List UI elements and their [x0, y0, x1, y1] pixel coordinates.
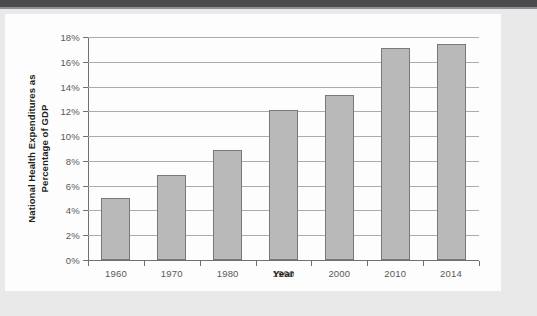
x-axis-tick	[144, 261, 145, 266]
x-axis-tick	[479, 261, 480, 266]
y-axis-tick-label: 18%	[60, 32, 80, 43]
x-axis-tick	[200, 261, 201, 266]
bar	[101, 198, 130, 260]
y-axis-tick-label: 16%	[60, 56, 80, 67]
x-axis-tick	[256, 261, 257, 266]
bar	[157, 175, 186, 260]
y-axis-title: National Health Expenditures as Percenta…	[21, 37, 55, 260]
y-axis-tick-label: 8%	[66, 155, 80, 166]
bar	[381, 48, 410, 260]
y-axis-tick-label: 6%	[66, 180, 80, 191]
y-axis-title-line2: Percentage of GDP	[39, 105, 50, 193]
bar-chart: National Health Expenditures as Percenta…	[5, 14, 501, 291]
x-axis-tick	[423, 261, 424, 266]
bar	[269, 110, 298, 260]
y-axis-tick-label: 2%	[66, 230, 80, 241]
y-axis-tick-label: 4%	[66, 205, 80, 216]
x-axis-tick	[311, 261, 312, 266]
x-axis-title: Year	[88, 268, 479, 279]
x-axis-tick	[88, 261, 89, 266]
bars-group	[88, 37, 479, 260]
x-axis-line	[88, 260, 479, 261]
bar	[437, 44, 466, 260]
y-axis-tick-label: 12%	[60, 106, 80, 117]
bar	[325, 95, 354, 260]
figure-card: National Health Expenditures as Percenta…	[5, 14, 501, 291]
y-axis-tick-label: 10%	[60, 131, 80, 142]
y-axis-title-line1: National Health Expenditures as	[26, 74, 37, 222]
y-axis-tick-label: 0%	[66, 255, 80, 266]
bar	[213, 150, 242, 260]
x-axis-tick	[367, 261, 368, 266]
top-dark-band	[0, 0, 537, 7]
page-root: National Health Expenditures as Percenta…	[0, 0, 537, 316]
y-axis-tick-label: 14%	[60, 81, 80, 92]
plot-area: 0%2%4%6%8%10%12%14%16%18% 19601970198019…	[88, 37, 479, 260]
